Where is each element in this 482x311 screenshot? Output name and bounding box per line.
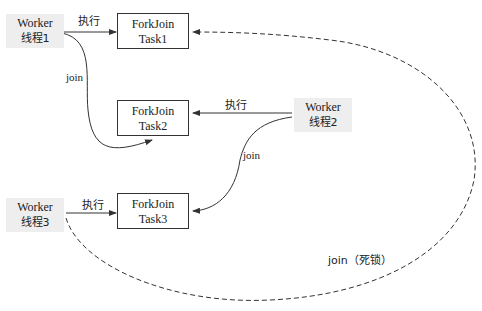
execute-label-2: 执行 <box>225 96 247 112</box>
join-label-2: join <box>243 149 260 161</box>
worker-name: Worker <box>298 100 348 115</box>
worker-name: Worker <box>10 200 60 215</box>
worker-thread-2: Worker 线程2 <box>294 98 352 132</box>
task-id: Task2 <box>118 119 188 134</box>
task-title: ForkJoin <box>118 104 188 119</box>
task-title: ForkJoin <box>118 197 188 212</box>
forkjoin-task-1: ForkJoin Task1 <box>117 13 189 49</box>
execute-label-3: 执行 <box>82 196 104 212</box>
deadlock-join-arrow <box>66 32 475 300</box>
forkjoin-task-2: ForkJoin Task2 <box>117 100 189 136</box>
join-label-1: join <box>66 71 83 83</box>
deadlock-label: join（死锁） <box>328 251 392 267</box>
diagram-links <box>0 0 482 311</box>
worker-thread-label: 线程1 <box>10 31 60 46</box>
forkjoin-task-3: ForkJoin Task3 <box>117 193 189 229</box>
task-title: ForkJoin <box>118 17 188 32</box>
task-id: Task1 <box>118 32 188 47</box>
execute-label-1: 执行 <box>78 12 100 28</box>
task-id: Task3 <box>118 212 188 227</box>
worker-thread-1: Worker 线程1 <box>6 14 64 48</box>
worker-thread-3: Worker 线程3 <box>6 198 64 232</box>
worker-name: Worker <box>10 16 60 31</box>
worker-thread-label: 线程2 <box>298 115 348 130</box>
worker-thread-label: 线程3 <box>10 215 60 230</box>
join-arrow-2 <box>193 117 292 211</box>
